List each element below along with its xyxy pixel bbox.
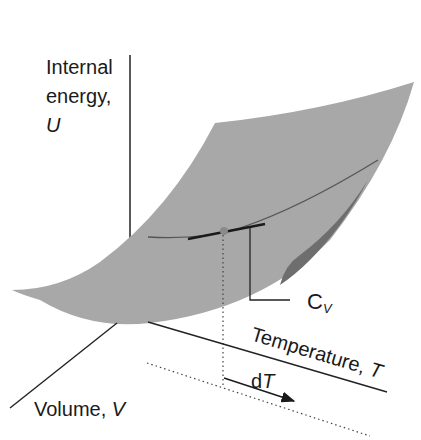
dt-d: d (251, 370, 262, 392)
cv-sub: V (323, 301, 333, 316)
u-axis-label-line2: energy, (46, 85, 111, 107)
cv-label: CV (307, 289, 333, 316)
volume-axis-label: Volume, V (34, 398, 127, 420)
u-axis-label-line1: Internal (46, 56, 113, 78)
u-axis-symbol: U (46, 114, 61, 136)
state-point (220, 227, 228, 235)
dt-symbol: T (262, 370, 276, 392)
volume-axis-symbol: V (112, 398, 127, 420)
volume-axis-text: Volume, (34, 398, 112, 420)
volume-axis (10, 323, 117, 408)
internal-energy-diagram: Internal energy, U Volume, V Temperature… (0, 0, 421, 440)
cv-main: C (307, 289, 323, 314)
dt-label: dT (251, 370, 276, 392)
